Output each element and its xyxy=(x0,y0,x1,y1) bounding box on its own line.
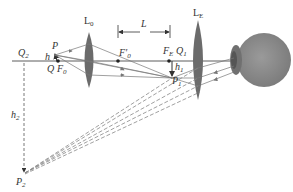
label-eyepiece-lens: LE xyxy=(193,8,203,20)
label-P2: P2 xyxy=(16,177,26,189)
label-distance-L: L xyxy=(141,19,147,29)
label-F0: F0 xyxy=(57,64,67,76)
label-FE: FE xyxy=(163,46,173,58)
label-Q2: Q2 xyxy=(18,48,29,60)
label-Q1: Q1 xyxy=(176,46,187,58)
label-P1: P1 xyxy=(172,76,182,88)
label-F0-prime: F′0 xyxy=(119,48,131,60)
eye-icon xyxy=(230,33,291,87)
label-h: h xyxy=(45,52,50,62)
objective-lens xyxy=(85,32,94,88)
label-h1: h1 xyxy=(175,62,184,74)
label-h2: h2 xyxy=(11,110,20,122)
label-objective-lens: L0 xyxy=(84,16,94,28)
label-P: P xyxy=(52,41,58,51)
label-Q: Q xyxy=(47,64,54,74)
